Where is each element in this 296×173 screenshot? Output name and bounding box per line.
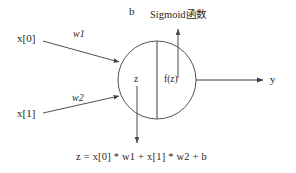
input-label-x0: x[0]	[17, 33, 35, 44]
weight-label-w1: w1	[73, 29, 85, 39]
activation-output-label: f(z)	[164, 75, 178, 85]
diagram-canvas	[0, 0, 296, 173]
bias-label: b	[129, 6, 135, 17]
activation-function-label: Sigmoid函数	[150, 10, 206, 21]
output-label-y: y	[270, 74, 276, 85]
pre-activation-label: z	[134, 75, 138, 85]
weight-label-w2: w2	[72, 93, 84, 103]
neuron-diagram: b Sigmoid函数 x[0] w1 x[1] w2 z f(z) y z =…	[0, 0, 296, 173]
equation-label: z = x[0] * w1 + x[1] * w2 + b	[76, 152, 207, 163]
input-connection-x0	[43, 41, 119, 62]
input-label-x1: x[1]	[17, 108, 35, 119]
